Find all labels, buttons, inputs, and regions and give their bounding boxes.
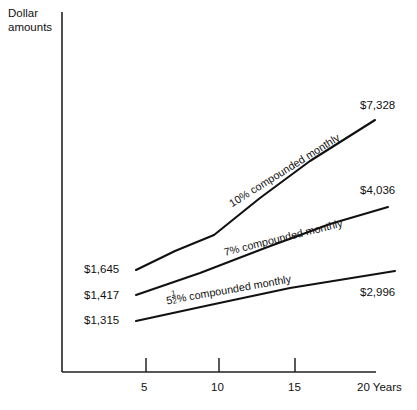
end-value-label-10pct: $7,328 [360,99,395,112]
end-value-label-7pct: $4,036 [360,184,395,197]
y-axis-title-line1: Dollar [8,6,52,20]
start-value-label-7pct: $1,417 [84,289,119,302]
y-axis-title: Dollar amounts [8,6,52,34]
x-tick-label-15: 15 [288,381,301,394]
start-value-label-10pct: $1,645 [84,263,119,276]
x-tick-label-10: 10 [211,381,224,394]
chart-canvas: Dollar amounts $1,645 $1,417 $1,315 $7,3… [0,0,417,410]
end-value-label-5-5pct: $2,996 [360,286,395,299]
x-tick-label-20-years: 20 Years [357,381,402,394]
start-value-label-5-5pct: $1,315 [84,314,119,327]
x-tick-label-5: 5 [141,381,147,394]
y-axis-title-line2: amounts [8,20,52,34]
chart-svg [0,0,417,410]
